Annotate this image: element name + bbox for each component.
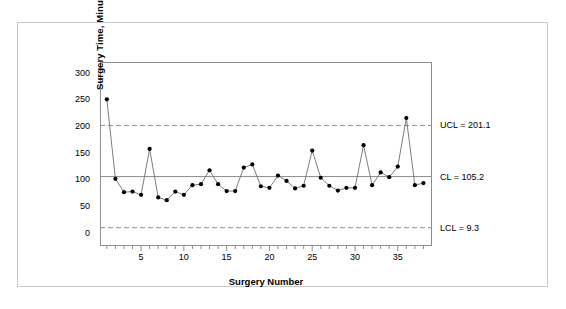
data-point [276, 174, 280, 178]
data-point [336, 188, 340, 192]
series-line [107, 99, 424, 200]
y-tick-label: 50 [56, 201, 90, 211]
x-tick-label: 20 [264, 252, 274, 262]
data-point [216, 182, 220, 186]
data-point [173, 190, 177, 194]
data-point [344, 186, 348, 190]
data-point [259, 184, 263, 188]
data-point [284, 179, 288, 183]
lcl-label: LCL = 9.3 [440, 223, 479, 233]
data-point [370, 183, 374, 187]
data-point [361, 143, 365, 147]
data-point [421, 181, 425, 185]
x-axis-title: Surgery Number [100, 276, 432, 287]
data-point [190, 183, 194, 187]
cl-label: CL = 105.2 [440, 172, 484, 182]
data-point [404, 116, 408, 120]
data-point [233, 189, 237, 193]
data-point [267, 186, 271, 190]
data-point [310, 148, 314, 152]
data-point [413, 183, 417, 187]
x-tick-label: 30 [350, 252, 360, 262]
data-point [387, 175, 391, 179]
data-point [250, 162, 254, 166]
data-point [242, 166, 246, 170]
data-point [156, 195, 160, 199]
series-polyline [107, 99, 424, 200]
data-point [130, 190, 134, 194]
data-point [327, 184, 331, 188]
data-point [165, 198, 169, 202]
ucl-label: UCL = 201.1 [440, 120, 490, 130]
y-tick-label: 200 [56, 121, 90, 131]
control-limit-lines [100, 125, 432, 227]
plot-area: 050100150200250300 5101520253035 UCL = 2… [100, 62, 432, 246]
chart-canvas [100, 62, 432, 246]
data-point [293, 186, 297, 190]
y-tick-label: 250 [56, 94, 90, 104]
data-point [105, 97, 109, 101]
data-point [113, 177, 117, 181]
y-axis-title: Surgery Time, Minutes [94, 0, 105, 90]
data-point [122, 190, 126, 194]
data-point [353, 186, 357, 190]
x-tick-label: 25 [307, 252, 317, 262]
y-tick-label: 0 [56, 228, 90, 238]
x-tick-label: 35 [393, 252, 403, 262]
data-point [379, 170, 383, 174]
data-point [319, 176, 323, 180]
control-chart-figure: 050100150200250300 5101520253035 UCL = 2… [0, 0, 566, 309]
data-point [302, 184, 306, 188]
data-point [199, 182, 203, 186]
y-tick-label: 150 [56, 148, 90, 158]
data-point [139, 193, 143, 197]
data-point [225, 189, 229, 193]
y-tick-label: 300 [56, 68, 90, 78]
data-point [396, 164, 400, 168]
data-point [148, 147, 152, 151]
series-markers [105, 97, 426, 202]
data-point [207, 168, 211, 172]
x-tick-label: 15 [222, 252, 232, 262]
x-tick-label: 5 [139, 252, 144, 262]
x-tick-label: 10 [179, 252, 189, 262]
y-tick-label: 100 [56, 174, 90, 184]
data-point [182, 193, 186, 197]
